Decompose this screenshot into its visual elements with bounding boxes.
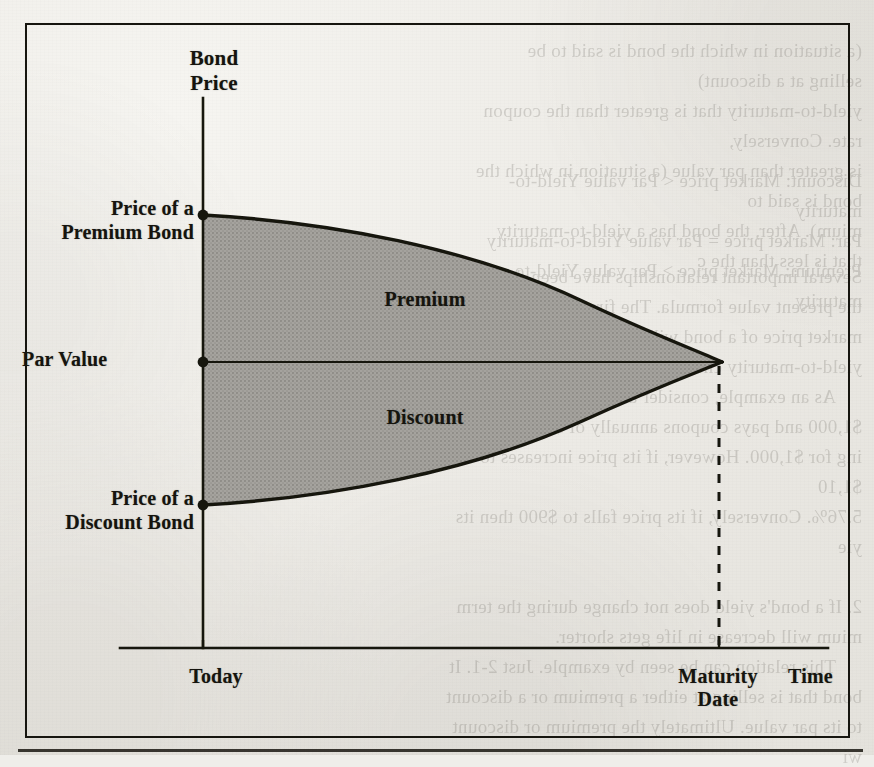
today-axis-label: Today <box>166 665 266 688</box>
discount-price-marker <box>198 500 209 511</box>
par-value-marker <box>198 357 209 368</box>
discount-bond-price-label: Price of a Discount Bond <box>10 486 194 534</box>
premium-area-label: Premium <box>345 288 505 311</box>
par-value-label: Par Value <box>22 348 194 371</box>
premium-price-marker <box>198 210 209 221</box>
discount-area-label: Discount <box>345 406 505 429</box>
y-axis-label: Bond Price <box>168 46 260 96</box>
premium-bond-price-label: Price of a Premium Bond <box>22 196 194 244</box>
x-axis-label: Time <box>788 665 868 688</box>
discount-region <box>203 362 722 505</box>
maturity-date-axis-label: Maturity Date <box>648 665 788 711</box>
